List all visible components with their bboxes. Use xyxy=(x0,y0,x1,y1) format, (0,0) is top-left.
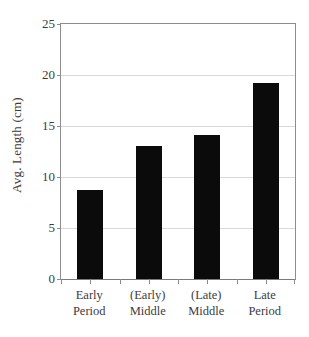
y-axis-title: Avg. Length (cm) xyxy=(0,0,34,290)
y-axis-title-text: Avg. Length (cm) xyxy=(9,97,25,193)
y-tick-label: 5 xyxy=(49,220,56,236)
bar xyxy=(253,83,279,279)
x-tick-mark xyxy=(294,279,295,284)
x-tick-mark-minor xyxy=(149,279,150,284)
x-axis-labels: EarlyPeriod(Early)Middle(Late)MiddleLate… xyxy=(60,287,294,333)
bar-chart: Avg. Length (cm) 0510152025 EarlyPeriod(… xyxy=(0,0,309,337)
y-tick-label: 25 xyxy=(42,16,55,32)
x-axis-label-line2: Period xyxy=(236,303,294,319)
y-tick-mark xyxy=(57,75,61,76)
bar xyxy=(136,146,162,279)
x-axis-label: (Early)Middle xyxy=(119,287,177,319)
x-axis-label-line1: (Early) xyxy=(130,288,165,302)
y-tick-mark xyxy=(57,24,61,25)
x-axis-label-line2: Middle xyxy=(177,303,235,319)
x-axis-label: EarlyPeriod xyxy=(60,287,118,319)
x-axis-label: LatePeriod xyxy=(236,287,294,319)
x-tick-mark xyxy=(61,279,62,284)
x-axis-label-line2: Period xyxy=(60,303,118,319)
x-tick-mark xyxy=(237,279,238,284)
plot-area: 0510152025 xyxy=(60,23,296,280)
y-tick-label: 0 xyxy=(49,271,56,287)
x-tick-mark-minor xyxy=(266,279,267,284)
y-tick-label: 20 xyxy=(42,67,55,83)
y-tick-label: 10 xyxy=(42,169,55,185)
x-axis-label-line1: (Late) xyxy=(191,288,222,302)
y-tick-mark xyxy=(57,126,61,127)
bar xyxy=(77,190,103,279)
y-tick-mark xyxy=(57,228,61,229)
y-tick-label: 15 xyxy=(42,118,55,134)
x-axis-label-line1: Early xyxy=(76,288,103,302)
x-axis-label-line2: Middle xyxy=(119,303,177,319)
x-axis-label: (Late)Middle xyxy=(177,287,235,319)
x-tick-mark-minor xyxy=(207,279,208,284)
x-tick-mark xyxy=(178,279,179,284)
gridline xyxy=(61,75,295,76)
x-tick-mark-minor xyxy=(90,279,91,284)
bar xyxy=(194,135,220,279)
x-axis-label-line1: Late xyxy=(254,288,276,302)
y-tick-mark xyxy=(57,177,61,178)
x-tick-mark xyxy=(120,279,121,284)
